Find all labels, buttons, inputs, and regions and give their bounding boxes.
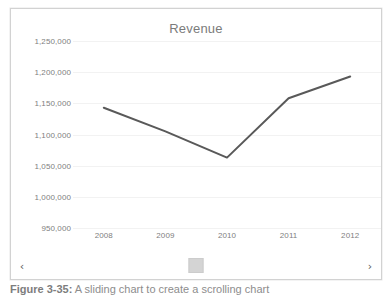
x-axis-labels: 20082009201020112012 [73, 231, 381, 245]
y-axis-tick-label: 1,250,000 [15, 37, 71, 46]
y-axis-tick-label: 1,100,000 [15, 130, 71, 139]
scroll-right-arrow-icon[interactable]: › [361, 253, 379, 279]
revenue-line-series [73, 41, 381, 228]
scroll-left-arrow-icon[interactable]: ‹ [13, 253, 31, 279]
y-axis-tick-label: 950,000 [15, 224, 71, 233]
y-axis-tick-label: 1,000,000 [15, 192, 71, 201]
chart-pane: Revenue 1,250,0001,200,0001,150,0001,100… [10, 8, 382, 280]
y-axis-tick-label: 1,150,000 [15, 99, 71, 108]
horizontal-scrollbar[interactable]: ‹ › [11, 253, 381, 279]
plot-area [73, 41, 381, 228]
figure-caption-text: A sliding chart to create a scrolling ch… [75, 283, 269, 295]
scrollbar-thumb[interactable] [189, 258, 204, 273]
figure-caption-number: Figure 3-35: [10, 283, 72, 295]
chart-plot-container: Revenue 1,250,0001,200,0001,150,0001,100… [11, 9, 381, 248]
x-axis-tick-label: 2008 [95, 231, 113, 240]
x-axis-tick-label: 2011 [280, 231, 298, 240]
x-axis-tick-label: 2009 [156, 231, 174, 240]
y-axis-tick-label: 1,200,000 [15, 68, 71, 77]
y-axis-labels: 1,250,0001,200,0001,150,0001,100,0001,05… [11, 41, 71, 228]
figure-caption: Figure 3-35: A sliding chart to create a… [10, 283, 370, 295]
x-axis-tick-label: 2012 [341, 231, 359, 240]
chart-title: Revenue [11, 21, 381, 36]
x-axis-tick-label: 2010 [218, 231, 236, 240]
y-axis-tick-label: 1,050,000 [15, 161, 71, 170]
scrollbar-track[interactable] [31, 257, 361, 275]
gridline [73, 228, 381, 229]
